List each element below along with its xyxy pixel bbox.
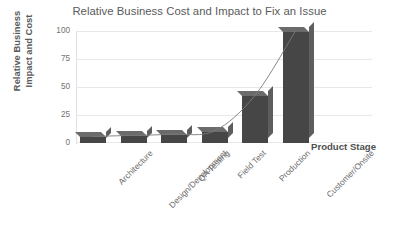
bar-side-face [187, 125, 192, 138]
bar-architecture[interactable] [80, 137, 106, 143]
y-axis-title-line-1: Relative Business [11, 3, 23, 99]
gridline-50 [76, 87, 372, 88]
y-tick-75: 75 [48, 55, 70, 63]
gridline-25 [76, 115, 372, 116]
bar-qa-testing[interactable] [161, 135, 187, 143]
x-label-qa-testing: QA Testing [196, 148, 232, 184]
x-label-field-test: Field Test [235, 148, 267, 180]
x-axis-category-labels: ArchitectureDesign/DevelopmentQA Testing… [0, 144, 399, 230]
bar-front-face [121, 136, 147, 143]
bar-side-face [268, 86, 273, 138]
x-label-production: Production [277, 148, 312, 183]
gridline-75 [76, 59, 372, 60]
bar-side-face [147, 126, 152, 138]
bar-production[interactable] [242, 96, 268, 143]
bar-side-face [106, 127, 111, 138]
bar-design-development[interactable] [121, 136, 147, 143]
bar-side-face [228, 122, 233, 138]
bar-field-test[interactable] [202, 132, 228, 143]
bar-side-face [309, 22, 314, 138]
x-axis-title: Product Stage [311, 141, 376, 152]
bar-front-face [202, 132, 228, 143]
gridline-100 [76, 31, 372, 32]
bar-front-face [242, 96, 268, 143]
plot-area [76, 31, 372, 143]
y-tick-100: 100 [48, 27, 70, 35]
x-label-architecture: Architecture [116, 148, 155, 187]
y-tick-50: 50 [48, 83, 70, 91]
bar-front-face [80, 137, 106, 143]
y-axis-title: Relative Business Impact and Cost [11, 3, 37, 99]
y-axis-title-line-2: Impact and Cost [23, 3, 35, 99]
bar-customer-onsite[interactable] [283, 32, 309, 143]
bar-front-face [283, 32, 309, 143]
bar-front-face [161, 135, 187, 143]
x-label-customer-onsite: Customer/Onsite [324, 148, 376, 200]
chart-container: Relative Business Cost and Impact to Fix… [0, 0, 399, 230]
y-tick-25: 25 [48, 111, 70, 119]
